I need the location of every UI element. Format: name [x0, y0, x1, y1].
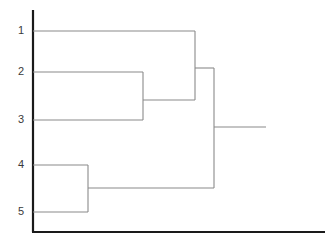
leaf-label-4: 4 — [8, 159, 24, 170]
leaf-label-3: 3 — [8, 114, 24, 125]
dendrogram-plot — [0, 0, 333, 244]
axes-group — [32, 10, 325, 232]
dendrogram-figure: 1 2 3 4 5 — [0, 0, 333, 244]
leaf-label-5: 5 — [8, 206, 24, 217]
leaf-label-2: 2 — [8, 66, 24, 77]
leaf-label-1: 1 — [8, 25, 24, 36]
dendrogram-links-group — [33, 31, 266, 212]
